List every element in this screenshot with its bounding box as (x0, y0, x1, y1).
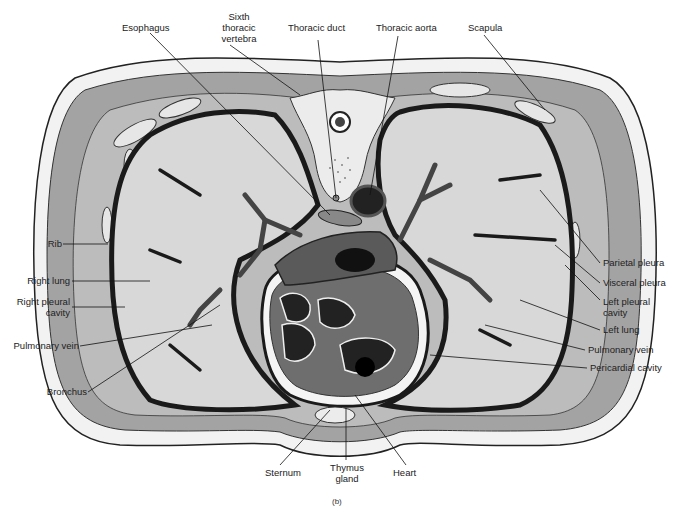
label-right-pleural-cavity: Right pleural cavity (0, 296, 70, 318)
label-left-pleural-cavity: Left pleural cavity (603, 296, 650, 318)
label-pericardial-cavity: Pericardial cavity (590, 362, 662, 373)
label-visceral-pleura: Visceral pleura (603, 277, 666, 288)
label-parietal-pleura: Parietal pleura (603, 257, 664, 268)
label-pulmonary-vein-left-side: Pulmonary vein (588, 344, 653, 355)
label-bronchus: Bronchus (20, 386, 87, 397)
label-thoracic-duct: Thoracic duct (288, 22, 345, 33)
label-sternum: Sternum (265, 467, 301, 478)
label-esophagus: Esophagus (122, 22, 170, 33)
label-rib: Rib (20, 238, 62, 249)
label-thymus-gland: Thymus gland (325, 462, 369, 484)
thorax-cross-section-diagram (0, 0, 681, 517)
thoracic-aorta (351, 186, 385, 216)
label-left-lung: Left lung (603, 324, 639, 335)
label-thoracic-aorta: Thoracic aorta (376, 22, 437, 33)
label-scapula: Scapula (468, 22, 502, 33)
label-pulmonary-vein-right-side: Pulmonary vein (0, 340, 79, 351)
figure-caption: (b) (332, 497, 342, 506)
sternum (315, 407, 355, 423)
label-right-lung: Right lung (0, 275, 70, 286)
label-sixth-thoracic-vertebra: Sixth thoracic vertebra (214, 11, 264, 44)
label-heart: Heart (393, 467, 416, 478)
